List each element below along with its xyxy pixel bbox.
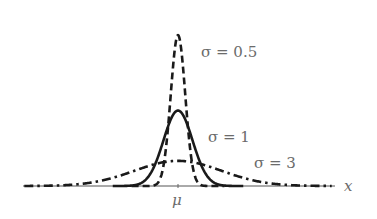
x-axis-label: x bbox=[344, 177, 353, 195]
label-sigma-0-5: σ = 0.5 bbox=[201, 43, 257, 61]
curve-sigma-1 bbox=[113, 111, 244, 186]
label-sigma-3: σ = 3 bbox=[254, 154, 296, 172]
gaussian-chart: σ = 0.5 σ = 1 σ = 3 x μ bbox=[0, 0, 377, 219]
mu-tick-label: μ bbox=[172, 191, 182, 209]
label-sigma-1: σ = 1 bbox=[208, 128, 250, 146]
